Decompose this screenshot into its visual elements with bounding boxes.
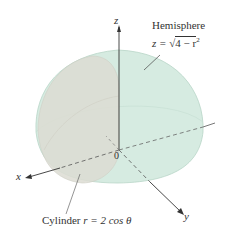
z-axis-label: z — [114, 14, 118, 26]
y-axis — [150, 182, 181, 212]
cylinder-surface — [38, 56, 119, 183]
y-axis-label: y — [184, 210, 189, 222]
x-axis-arrow — [25, 174, 32, 179]
z-axis-arrow — [117, 25, 121, 32]
hemisphere-equation: z = √4 − r2 — [152, 36, 200, 49]
hemisphere-title: Hemisphere — [152, 19, 205, 31]
back-axis — [203, 123, 215, 127]
cylinder-equation: r = 2 cos θ — [83, 214, 131, 226]
hemisphere-eq-exponent: 2 — [196, 36, 200, 44]
hemisphere-eq-lhs: z = — [152, 37, 166, 49]
x-axis-label: x — [16, 170, 21, 182]
cylinder-label: Cylinder r = 2 cos θ — [42, 214, 132, 226]
hemisphere-eq-radicand: 4 − r — [175, 36, 196, 49]
origin-label: 0 — [114, 150, 119, 161]
cylinder-word: Cylinder — [42, 214, 81, 226]
